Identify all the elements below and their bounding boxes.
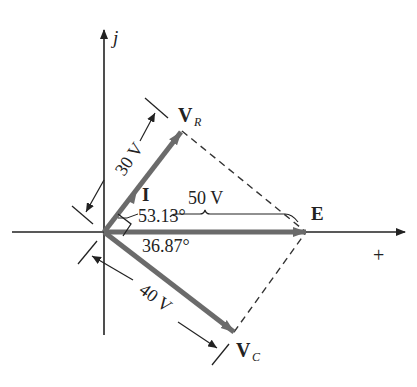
e-label: E [311, 203, 324, 224]
vc-label: V [236, 339, 251, 361]
current-label: I [142, 184, 149, 205]
angle-upper-label: 53.13° [138, 206, 186, 226]
dimension-40v: 40 V [78, 241, 229, 365]
imaginary-axis-label: j [110, 27, 118, 48]
dimension-50v: 50 V [170, 188, 298, 222]
real-axis-plus-label: + [373, 244, 384, 266]
phasor-diagram: j + 30 V 40 V 50 V 53.13° 36. [0, 0, 417, 387]
vc-subscript: C [252, 350, 261, 364]
vr-label: V [178, 104, 193, 126]
vr-subscript: R [193, 115, 202, 129]
vr-magnitude-label: 30 V [111, 139, 147, 179]
axes: j + [12, 27, 405, 335]
angle-lower-label: 36.87° [142, 236, 190, 256]
e-magnitude-label: 50 V [188, 188, 223, 208]
